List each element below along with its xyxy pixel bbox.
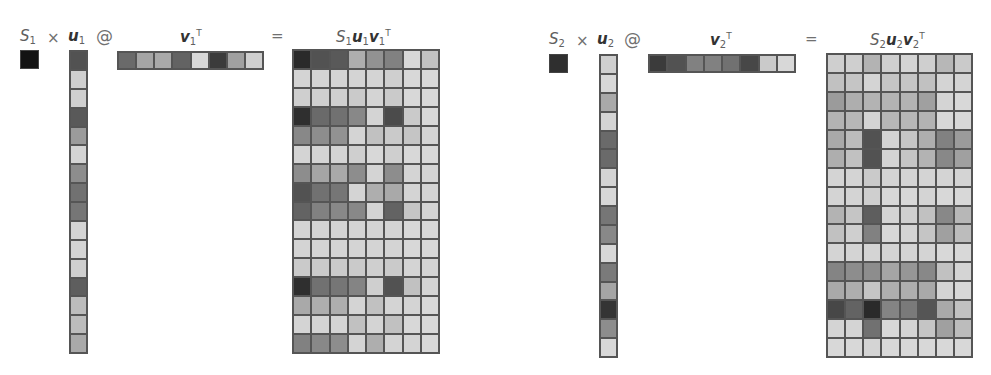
matrix-cell <box>918 54 936 73</box>
matrix-cell <box>421 202 439 221</box>
matrix-cell <box>293 315 311 334</box>
right-singular-vector-v2t <box>648 54 796 73</box>
matrix-cell <box>311 145 329 164</box>
matrix-cell <box>900 111 918 130</box>
vector-cell <box>649 55 667 72</box>
s-symbol: S <box>336 28 346 46</box>
matrix-cell <box>827 206 845 225</box>
matrix-cell <box>863 281 881 300</box>
matrix-cell <box>954 149 972 168</box>
times-operator: × <box>47 31 60 46</box>
matrix-cell <box>293 220 311 239</box>
matrix-cell <box>330 50 348 69</box>
vector-cell <box>70 315 87 334</box>
matrix-cell <box>936 206 954 225</box>
vector-cell <box>600 300 617 319</box>
matrix-cell <box>918 73 936 92</box>
matrix-cell <box>348 50 366 69</box>
matrix-cell <box>348 69 366 88</box>
matrix-cell <box>421 315 439 334</box>
vector-cell <box>70 240 87 259</box>
vector-cell <box>704 55 722 72</box>
matrix-cell <box>845 54 863 73</box>
matrix-cell <box>330 88 348 107</box>
matrix-cell <box>348 164 366 183</box>
vector-cell <box>759 55 777 72</box>
v-symbol: v <box>903 31 913 49</box>
matrix-cell <box>403 145 421 164</box>
matrix-cell <box>293 164 311 183</box>
vector-cell <box>70 127 87 146</box>
matrix-cell <box>384 315 402 334</box>
matrix-cell <box>900 300 918 319</box>
matrix-cell <box>384 296 402 315</box>
vector-cell <box>600 55 617 74</box>
matrix-cell <box>366 258 384 277</box>
vector-cell <box>191 52 209 69</box>
scalar-label-s1: S1 <box>20 29 36 46</box>
matrix-cell <box>936 111 954 130</box>
matrix-cell <box>936 338 954 357</box>
matrix-cell <box>845 73 863 92</box>
matrix-cell <box>293 334 311 353</box>
matrix-cell <box>403 50 421 69</box>
matrix-cell <box>421 107 439 126</box>
matrix-cell <box>293 239 311 258</box>
matrix-cell <box>384 164 402 183</box>
matrix-cell <box>403 202 421 221</box>
matrix-cell <box>827 262 845 281</box>
vector-cell <box>154 52 172 69</box>
matrix-cell <box>845 130 863 149</box>
vector-label-v2t: v2T <box>710 32 732 50</box>
vector-cell <box>600 131 617 150</box>
matrix-cell <box>881 281 899 300</box>
vector-cell <box>70 221 87 240</box>
matrix-cell <box>403 334 421 353</box>
matrix-cell <box>918 338 936 357</box>
equals-operator: = <box>271 29 284 44</box>
matrix-cell <box>936 319 954 338</box>
matrix-cell <box>900 187 918 206</box>
matrix-cell <box>881 206 899 225</box>
vector-cell <box>600 338 617 357</box>
u-symbol: u <box>352 28 363 46</box>
vector-cell <box>70 89 87 108</box>
matrix-cell <box>330 258 348 277</box>
matrix-cell <box>330 220 348 239</box>
matrix-cell <box>881 73 899 92</box>
matrix-cell <box>936 149 954 168</box>
matrix-cell <box>900 206 918 225</box>
vector-cell <box>600 282 617 301</box>
vector-cell <box>70 334 87 353</box>
matrix-cell <box>900 149 918 168</box>
matrix-cell <box>311 69 329 88</box>
matrix-cell <box>918 130 936 149</box>
matrix-cell <box>863 149 881 168</box>
matrix-cell <box>900 168 918 187</box>
matrix-cell <box>918 168 936 187</box>
right-singular-vector-v1t <box>117 51 264 70</box>
matrix-cell <box>900 338 918 357</box>
matmul-operator: @ <box>96 28 113 45</box>
matrix-cell <box>936 243 954 262</box>
matrix-cell <box>827 224 845 243</box>
matrix-cell <box>366 334 384 353</box>
vector-cell <box>70 164 87 183</box>
matrix-cell <box>954 73 972 92</box>
matrix-cell <box>311 50 329 69</box>
matrix-cell <box>384 220 402 239</box>
matrix-cell <box>366 88 384 107</box>
vector-cell <box>600 206 617 225</box>
matrix-cell <box>330 183 348 202</box>
matrix-cell <box>421 296 439 315</box>
matrix-cell <box>384 69 402 88</box>
vector-cell <box>600 187 617 206</box>
matrix-cell <box>881 262 899 281</box>
matrix-cell <box>348 145 366 164</box>
matrix-cell <box>827 130 845 149</box>
matrix-cell <box>936 73 954 92</box>
matrix-cell <box>881 149 899 168</box>
matrix-cell <box>845 187 863 206</box>
matrix-cell <box>827 300 845 319</box>
matrix-cell <box>918 206 936 225</box>
